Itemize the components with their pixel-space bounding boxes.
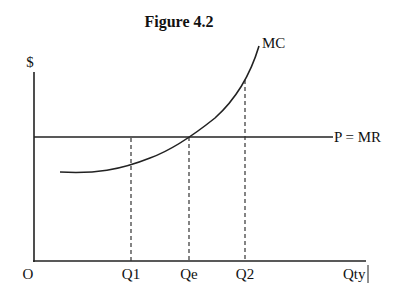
mc-label: MC — [262, 35, 285, 51]
mc-curve — [60, 46, 259, 172]
y-axis-label: $ — [26, 54, 34, 70]
tick-label-q1: Q1 — [122, 266, 140, 282]
origin-label: O — [23, 266, 34, 282]
figure-title: Figure 4.2 — [144, 13, 213, 31]
price-mr-label: P = MR — [334, 129, 381, 145]
x-axis-label: Qty — [343, 266, 366, 282]
tick-label-q2: Q2 — [236, 266, 254, 282]
tick-label-qe: Qe — [180, 266, 198, 282]
figure-canvas: Figure 4.2 $ P = MR MC O Q1 Qe Q2 Qty — [0, 0, 401, 297]
